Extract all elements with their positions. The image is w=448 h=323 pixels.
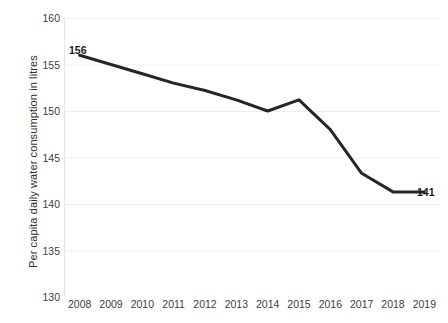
y-tick-label-130: 130	[26, 292, 60, 302]
plot-area	[64, 18, 440, 297]
data-label-2008: 156	[69, 44, 87, 56]
data-series-line	[80, 55, 425, 192]
y-tick-label-150: 150	[26, 106, 60, 116]
x-axis-tick-labels: 2008200920102011201220132014201520162017…	[64, 298, 440, 314]
y-tick-label-135: 135	[26, 246, 60, 256]
plot-svg	[64, 18, 440, 297]
y-tick-label-155: 155	[26, 60, 60, 70]
y-axis-tick-labels: 130135140145150155160	[22, 0, 60, 323]
y-tick-label-160: 160	[26, 13, 60, 23]
line-chart: Per capita daily water consumption in li…	[0, 0, 448, 323]
data-label-2019: 141	[417, 186, 435, 198]
y-tick-label-140: 140	[26, 199, 60, 209]
gridlines	[64, 19, 440, 298]
x-tick-label-2019: 2019	[404, 298, 444, 310]
y-tick-label-145: 145	[26, 153, 60, 163]
